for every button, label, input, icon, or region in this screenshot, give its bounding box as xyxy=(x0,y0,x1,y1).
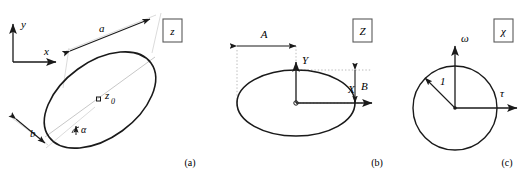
center-label-z: z xyxy=(104,89,110,101)
figure-container: y x a b z 0 α z (a) xyxy=(0,0,531,178)
panel-c: ω τ 1 χ (c) xyxy=(413,19,517,169)
radius-label: 1 xyxy=(440,75,446,87)
dimension-a-label: a xyxy=(99,22,105,34)
dimension-B-label: B xyxy=(361,80,368,92)
plane-label-Z: Z xyxy=(359,25,366,37)
a-dimension-tick-outer xyxy=(152,13,161,53)
caption-c: (c) xyxy=(501,157,512,169)
axis-omega-label: ω xyxy=(461,32,469,44)
caption-a: (a) xyxy=(184,157,195,169)
axis-y-label: y xyxy=(20,18,26,30)
panel-b: Y X A B Z (b) xyxy=(237,19,383,169)
plane-label-z: z xyxy=(169,25,175,37)
dimension-A-label: A xyxy=(260,28,268,40)
plane-label-box-a: z xyxy=(163,19,182,42)
plane-label-box-c: χ xyxy=(494,19,513,42)
plane-label-box-b: Z xyxy=(353,19,372,42)
panel-a: y x a b z 0 α z (a) xyxy=(12,13,196,169)
axis-Y-label: Y xyxy=(302,54,310,66)
caption-b: (b) xyxy=(371,157,383,169)
three-panel-ellipse-diagram: y x a b z 0 α z (a) xyxy=(0,0,531,178)
alpha-label: α xyxy=(81,124,87,135)
a-dimension-guide-upper xyxy=(66,15,156,51)
axis-tau-label: τ xyxy=(500,87,505,99)
center-label-subscript: 0 xyxy=(111,97,115,106)
dimension-a-arrow xyxy=(70,19,150,51)
dimension-b-label: b xyxy=(30,127,36,139)
plane-label-chi: χ xyxy=(500,25,507,37)
axis-x-label: x xyxy=(43,45,49,57)
